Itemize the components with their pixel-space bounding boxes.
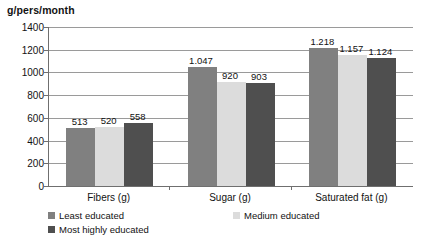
y-axis-tick-label: 1400 [4,22,44,33]
y-axis-tick [44,95,48,96]
y-axis-tick [44,186,48,187]
chart-legend: Least educatedMedium educatedMost highly… [48,210,412,240]
legend-swatch-icon [233,212,240,219]
y-axis-tick [44,72,48,73]
y-axis-tick-label: 200 [4,158,44,169]
legend-swatch-icon [48,212,55,219]
legend-swatch-icon [48,226,55,233]
legend-item-label: Least educated [59,210,124,221]
y-axis-tick [44,27,48,28]
y-axis-tick-label: 400 [4,135,44,146]
bar [66,128,95,186]
bar [188,67,217,186]
legend-item-label: Medium educated [244,210,320,221]
y-axis-tick-label: 0 [4,181,44,192]
bar-value-label: 558 [130,111,146,122]
x-axis-tick [169,186,170,190]
bar-chart: g/pers/month 0200400600800100012001400 F… [0,0,425,244]
bar-value-label: 1.047 [189,55,213,66]
legend-item[interactable]: Medium educated [233,210,320,221]
y-axis-tick-label: 800 [4,90,44,101]
bar [124,123,153,186]
bar [95,127,124,186]
legend-item-label: Most highly educated [59,224,149,235]
bar-value-label: 1.218 [310,36,334,47]
bar [338,55,367,186]
x-axis-category-label: Saturated fat (g) [315,192,387,203]
y-axis-tick-label: 1200 [4,44,44,55]
bar-value-label: 920 [222,70,238,81]
x-axis-line [48,186,412,187]
bar [367,58,396,186]
bar [246,83,275,186]
legend-item[interactable]: Most highly educated [48,224,149,235]
legend-item[interactable]: Least educated [48,210,124,221]
y-axis-tick [44,141,48,142]
x-axis-category-label: Fibers (g) [87,192,130,203]
bar-value-label: 1.124 [368,46,392,57]
y-axis-tick-label: 600 [4,112,44,123]
bar-value-label: 520 [101,115,117,126]
y-axis-tick [44,118,48,119]
bar-value-label: 903 [251,71,267,82]
bar [217,82,246,186]
chart-unit-title: g/pers/month [7,4,75,16]
y-axis-tick [44,163,48,164]
bar-value-label: 1.157 [339,43,363,54]
x-axis-tick [291,186,292,190]
gridline [49,27,413,28]
bar [309,48,338,186]
bar-value-label: 513 [72,116,88,127]
y-axis-tick [44,50,48,51]
y-axis-tick-label: 1000 [4,67,44,78]
x-axis-category-label: Sugar (g) [209,192,251,203]
